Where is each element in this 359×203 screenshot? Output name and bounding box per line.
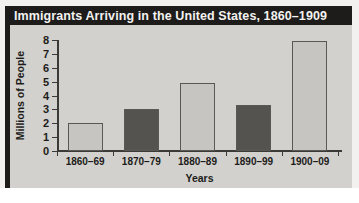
chart-title: Immigrants Arriving in the United States… bbox=[5, 9, 327, 23]
bar bbox=[292, 41, 327, 151]
plot-area bbox=[57, 40, 338, 151]
y-tick-label: 8 bbox=[43, 35, 49, 46]
x-tick-mark bbox=[282, 152, 283, 156]
chart-title-bar: Immigrants Arriving in the United States… bbox=[5, 6, 352, 25]
x-tick-label: 1880–89 bbox=[178, 156, 217, 167]
page-margin bbox=[0, 188, 359, 203]
y-tick-label: 5 bbox=[43, 76, 49, 87]
y-tick-label: 2 bbox=[43, 118, 49, 129]
bar bbox=[180, 83, 215, 151]
x-tick-label: 1870–79 bbox=[122, 156, 161, 167]
x-tick-label: 1860–69 bbox=[66, 156, 105, 167]
bar bbox=[124, 109, 159, 151]
x-tick-mark bbox=[226, 152, 227, 156]
chart-figure: Immigrants Arriving in the United States… bbox=[0, 0, 359, 203]
y-tick-label: 6 bbox=[43, 62, 49, 73]
x-tick-mark bbox=[169, 152, 170, 156]
y-tick-label: 7 bbox=[43, 48, 49, 59]
bar bbox=[68, 123, 103, 151]
y-tick-label: 3 bbox=[43, 104, 49, 115]
x-tick-label: 1890–99 bbox=[234, 156, 273, 167]
x-tick-mark bbox=[113, 152, 114, 156]
y-tick-label: 0 bbox=[43, 146, 49, 157]
x-tick-mark bbox=[338, 152, 339, 156]
x-tick-mark bbox=[57, 152, 58, 156]
y-tick-label: 1 bbox=[43, 132, 49, 143]
bar bbox=[236, 105, 271, 151]
x-tick-label: 1900–09 bbox=[290, 156, 329, 167]
y-tick-label: 4 bbox=[43, 90, 49, 101]
x-axis-title: Years bbox=[57, 172, 342, 184]
y-axis-title: Millions of People bbox=[13, 40, 27, 151]
